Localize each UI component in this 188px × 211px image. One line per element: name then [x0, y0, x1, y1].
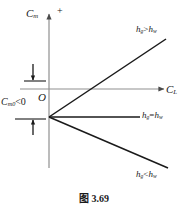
y-axis-positive-sign: + [57, 6, 63, 16]
curve-label-right-subscript: w [153, 28, 157, 34]
intercept-base: C [1, 96, 8, 107]
intercept-relation: <0 [15, 96, 26, 107]
curve-hg-less-hw [49, 117, 168, 168]
curve-label-hg-greater-hw: hg>hw [136, 25, 157, 35]
intercept-annotation: Cm0<0 [1, 97, 26, 107]
curve-label-right-subscript: w [159, 114, 163, 120]
curve-label-hg-equal-hw: hg=hw [142, 111, 163, 121]
figure-caption: 图 3.69 [0, 190, 188, 205]
y-axis-label: Cm [26, 8, 38, 20]
curve-label-hg-less-hw: hg<hw [136, 170, 157, 180]
curve-label-right-subscript: w [153, 173, 157, 179]
x-axis-label-subscript: L [173, 88, 177, 95]
figure-container: Cm + CL O Cm0<0 hg>hw hg=hw hg<hw 图 3.69 [0, 0, 188, 211]
curve-hg-greater-hw [49, 39, 166, 117]
x-axis-label: CL [166, 84, 177, 96]
origin-label: O [38, 92, 46, 103]
y-axis-label-subscript: m [33, 12, 38, 19]
plot-canvas [0, 0, 188, 211]
